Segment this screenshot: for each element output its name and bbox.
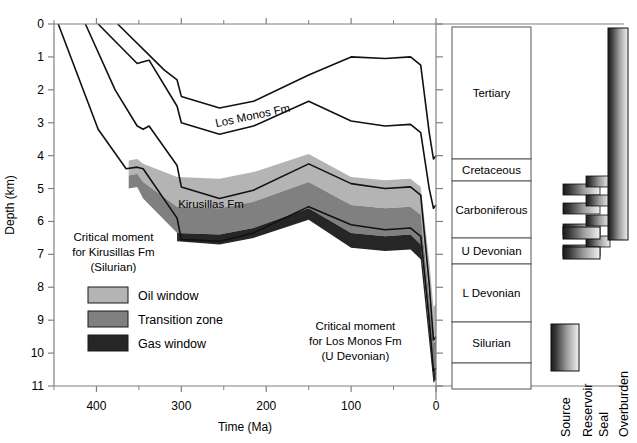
y-axis-title: Depth (km) [3,175,17,234]
y-tick-label-2: 2 [37,83,44,97]
legend-label-transition-zone: Transition zone [138,313,223,327]
x-tick-label-0: 0 [433,399,440,413]
y-tick-label-4: 4 [37,149,44,163]
petroleum-element-seal [563,227,600,239]
y-tick-label-6: 6 [37,214,44,228]
legend-swatch-oil-window [88,287,128,303]
petroleum-element-source [551,324,579,371]
y-tick-label-9: 9 [37,313,44,327]
y-tick-label-7: 7 [37,247,44,261]
kirusillas-fm-label: Kirusillas Fm [178,198,244,210]
strat-label-cretaceous: Cretaceous [462,164,521,176]
critical-moment-kirusillas-line-2: for Kirusillas Fm [72,246,154,258]
y-tick-label-10: 10 [31,346,45,360]
y-tick-label-1: 1 [37,50,44,64]
petroleum-bar-7 [586,215,610,226]
y-tick-label-8: 8 [37,280,44,294]
chart-canvas: 01234567891011Depth (km)4003002001000Tim… [0,0,637,443]
x-tick-label-100: 100 [341,399,361,413]
strat-label-tertiary: Tertiary [473,87,511,99]
petroleum-element-reservoir [563,247,600,259]
strat-label-l-devonian: L Devonian [463,287,521,299]
x-tick-label-200: 200 [256,399,276,413]
y-tick-label-5: 5 [37,182,44,196]
legend-swatch-gas-window [88,335,128,351]
petroleum-element-overburden [608,28,628,240]
critical-moment-los-monos-line-1: Critical moment [315,320,396,332]
y-tick-label-11: 11 [32,379,45,393]
legend-swatch-transition-zone [88,311,128,327]
y-tick-label-0: 0 [37,17,44,31]
y-tick-label-3: 3 [37,116,44,130]
legend-label-gas-window: Gas window [138,337,207,351]
petroleum-label-reservoir: Reservoir [581,384,595,438]
strat-label-silurian: Silurian [472,337,510,349]
x-tick-label-300: 300 [171,399,191,413]
critical-moment-kirusillas-line-3: (Silurian) [90,261,136,273]
petroleum-bar-6 [586,195,610,206]
petroleum-bar-5 [586,176,610,187]
x-tick-label-400: 400 [86,399,106,413]
strat-label-carboniferous: Carboniferous [455,204,527,216]
petroleum-label-source: Source [559,397,573,437]
critical-moment-los-monos-line-2: for Los Monos Fm [309,335,402,347]
critical-moment-los-monos-line-3: (U Devonian) [321,350,389,362]
critical-moment-kirusillas-line-1: Critical moment [73,231,154,243]
petroleum-label-overburden: Overburden [617,371,631,437]
strat-row-blank[interactable] [452,363,531,389]
petroleum-label-seal: Seal [597,412,611,437]
x-axis-title: Time (Ma) [218,420,272,434]
legend-label-oil-window: Oil window [138,289,199,303]
horizon-4-shallowest-top [118,24,436,159]
los-monos-fm-label: Los Monos Fm [214,102,291,130]
burial-history-chart: 01234567891011Depth (km)4003002001000Tim… [0,0,637,443]
strat-label-u-devonian: U Devonian [461,245,521,257]
